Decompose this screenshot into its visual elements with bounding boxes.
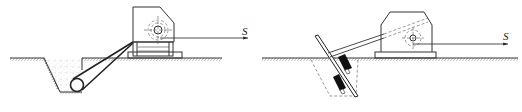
force-label-left: S: [242, 25, 248, 37]
left-panel: S: [10, 7, 248, 94]
diagram-canvas: S: [0, 0, 522, 112]
force-label-right: S: [503, 30, 509, 42]
buried-log: [71, 79, 84, 92]
force-arrow-right: S: [413, 30, 509, 44]
right-panel: S: [262, 12, 518, 97]
base-plate: [375, 52, 436, 58]
inclined-plate: [315, 35, 358, 97]
winch-drum: [144, 16, 172, 44]
force-arrow-left: S: [160, 25, 248, 38]
skid-base: [128, 42, 182, 58]
